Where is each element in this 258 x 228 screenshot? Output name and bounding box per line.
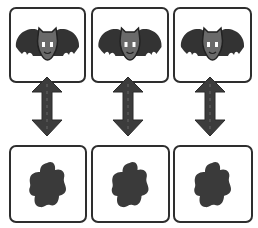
blob-icon [175,147,251,221]
bat-icon [175,9,250,81]
double-arrow-vertical-icon [29,76,65,138]
bat-card-1 [9,7,86,83]
blob-icon [11,147,85,221]
bat-card-3 [173,7,252,83]
double-arrow-vertical-icon [192,76,228,138]
blob-card-3 [173,145,253,223]
blob-card-2 [91,145,170,223]
bat-card-2 [91,7,169,83]
bat-icon [93,9,167,81]
double-arrow-vertical-icon [110,76,146,138]
bat-icon [11,9,84,81]
blob-icon [93,147,168,221]
blob-card-1 [9,145,87,223]
